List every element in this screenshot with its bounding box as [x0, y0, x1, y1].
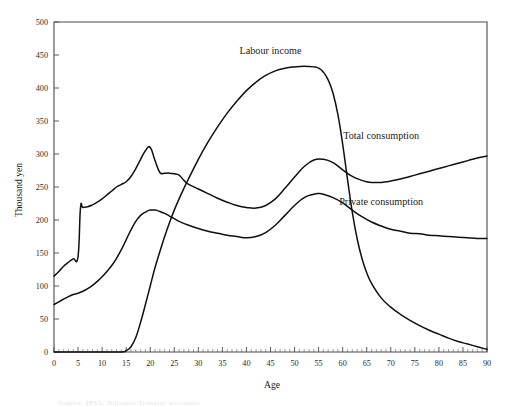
y-tick-label: 400 — [36, 84, 48, 93]
x-tick-label: 35 — [218, 359, 226, 368]
x-tick-label: 60 — [339, 359, 347, 368]
y-tick-label: 0 — [44, 348, 48, 357]
y-tick-label: 150 — [36, 249, 48, 258]
series-line-private-consumption — [54, 194, 487, 305]
x-tick-label: 0 — [52, 359, 56, 368]
x-tick-label: 30 — [194, 359, 202, 368]
series-label-labour-income: Labour income — [240, 45, 302, 56]
series-group — [54, 66, 487, 352]
x-tick-label: 50 — [290, 359, 298, 368]
series-line-total-consumption — [54, 147, 487, 276]
x-tick-label: 5 — [76, 359, 80, 368]
x-tick-label: 45 — [266, 359, 274, 368]
figure-caption: Source: IPSS, National Transfer Accounts — [58, 399, 200, 407]
x-axis-tick-labels: 051015202530354045505560657075808590 — [52, 359, 491, 368]
y-axis-title: Thousand yen — [13, 163, 24, 217]
x-tick-label: 15 — [122, 359, 130, 368]
y-tick-label: 100 — [36, 282, 48, 291]
y-tick-label: 200 — [36, 216, 48, 225]
x-tick-label: 65 — [363, 359, 371, 368]
x-tick-label: 80 — [435, 359, 443, 368]
x-tick-label: 40 — [242, 359, 250, 368]
x-tick-label: 90 — [483, 359, 491, 368]
x-tick-label: 70 — [387, 359, 395, 368]
y-tick-label: 300 — [36, 150, 48, 159]
y-tick-label: 250 — [36, 183, 48, 192]
y-tick-label: 50 — [40, 315, 48, 324]
x-axis-title: Age — [264, 379, 280, 390]
series-label-total-consumption: Total consumption — [343, 130, 419, 141]
y-tick-label: 500 — [36, 18, 48, 27]
x-tick-label: 75 — [411, 359, 419, 368]
x-axis-ticks — [54, 347, 487, 352]
y-tick-label: 350 — [36, 117, 48, 126]
plot-frame — [54, 22, 487, 352]
x-tick-label: 20 — [146, 359, 154, 368]
x-tick-label: 55 — [315, 359, 323, 368]
series-label-private-consumption: Private consumption — [339, 196, 423, 207]
line-chart: 050100150200250300350400450500 051015202… — [0, 0, 506, 407]
x-tick-label: 25 — [170, 359, 178, 368]
chart-figure: 050100150200250300350400450500 051015202… — [0, 0, 506, 407]
y-axis-tick-labels: 050100150200250300350400450500 — [36, 18, 48, 357]
y-tick-label: 450 — [36, 51, 48, 60]
series-line-labour-income — [54, 66, 487, 352]
x-tick-label: 85 — [459, 359, 467, 368]
x-tick-label: 10 — [98, 359, 106, 368]
series-label-group: Labour incomeTotal consumptionPrivate co… — [240, 45, 424, 208]
